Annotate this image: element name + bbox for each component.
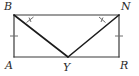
- segment-b-y: [14, 15, 68, 57]
- vertex-label-r: R: [120, 60, 128, 71]
- vertex-label-n: N: [121, 1, 131, 12]
- geometry-figure: B N A R Y: [0, 0, 139, 76]
- diagonal-segments: [14, 15, 119, 57]
- angle-mark-n: [99, 17, 106, 23]
- vertex-label-a: A: [5, 60, 13, 71]
- rectangle-outline: [14, 15, 119, 57]
- angle-mark-b: [27, 17, 34, 23]
- vertex-label-y: Y: [63, 62, 70, 73]
- vertex-label-b: B: [4, 1, 12, 12]
- segment-n-y: [68, 15, 119, 57]
